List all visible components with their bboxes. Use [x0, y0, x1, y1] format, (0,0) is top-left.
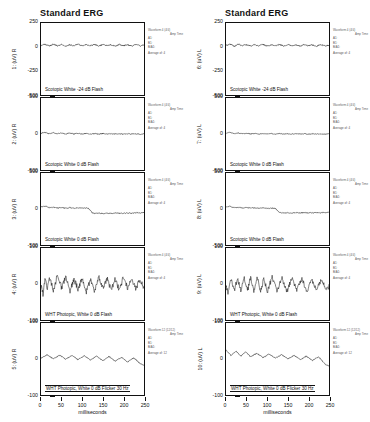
annotation-average: Average of: 4 — [333, 126, 369, 130]
x-tick-label: 50 — [58, 402, 64, 408]
y-tick-label: -100 — [213, 393, 223, 398]
y-axis-ticks: 5000-500 — [16, 97, 40, 171]
annotation-row: B/A1: — [333, 195, 369, 199]
annotation-row: B/A1: — [148, 270, 184, 274]
x-tick-mark — [61, 397, 62, 401]
y-tick-label: 0 — [35, 131, 38, 136]
condition-label: Scotopic White 0 dB Flash — [45, 237, 99, 242]
x-axis: 050100150200250milliseconds — [225, 397, 330, 419]
condition-label: Scotopic White 0 dB Flash — [45, 162, 99, 167]
plot-area: WHT Photopic, White 0 dB Flash — [225, 247, 330, 321]
annotation-row: B/A1: — [333, 270, 369, 274]
annotation-row: B/A1: — [148, 345, 184, 349]
waveform-annotation: Waveform 4 (4/4)Amp TimeA1:B1:B/A1:Avera… — [148, 28, 184, 55]
y-axis-ticks: 1000-100 — [201, 322, 225, 396]
waveform-trace — [41, 173, 144, 245]
annotation-row: B/A1: — [148, 45, 184, 49]
x-tick-label: 150 — [99, 402, 108, 408]
waveform-annotation: Waveform 12 (12/12)Amp TimeA1:B1:B/A1:Av… — [148, 328, 184, 355]
x-tick-label: 100 — [263, 402, 272, 408]
annotation-row: B/A1: — [148, 195, 184, 199]
x-tick-label: 200 — [305, 402, 314, 408]
waveform-trace — [41, 23, 144, 95]
annotation-average: Average of: 12 — [333, 351, 369, 355]
y-tick-label: 0 — [220, 356, 223, 361]
x-tick-mark — [82, 397, 83, 401]
x-axis-title: milliseconds — [78, 409, 106, 415]
waveform-trace — [41, 248, 144, 320]
y-tick-label: -100 — [28, 393, 38, 398]
waveform-annotation: Waveform 12 (12/12)Amp TimeA1:B1:B/A1:Av… — [333, 328, 369, 355]
column-title-right: Standard ERG — [40, 8, 103, 18]
plot-area: Scotopic White -24 dB Flash — [40, 22, 145, 96]
plot-area: Scotopic White 0 dB Flash — [40, 172, 145, 246]
x-tick-mark — [309, 397, 310, 401]
condition-label: WHT Photopic, White 0 dB Flash — [45, 312, 112, 317]
plot-area: WHT Photopic, White 0 dB Flicker 30 Hz — [40, 322, 145, 396]
x-tick-mark — [246, 397, 247, 401]
erg-panel-6: 6: (uV) L2500-250-500Scotopic White -24 … — [185, 22, 370, 96]
x-tick-mark — [103, 397, 104, 401]
x-tick-mark — [124, 397, 125, 401]
annotation-average: Average of: 4 — [333, 51, 369, 55]
waveform-trace — [226, 98, 329, 170]
annotation-row: B/A1: — [333, 345, 369, 349]
x-tick-mark — [145, 397, 146, 401]
waveform-trace — [226, 23, 329, 95]
waveform-trace — [41, 98, 144, 170]
waveform-annotation: Waveform 4 (4/4)Amp TimeA1:B1:B/A1:Avera… — [333, 103, 369, 130]
plot-area: Scotopic White 0 dB Flash — [225, 97, 330, 171]
erg-panel-8: 8: (uV) L5000-500Scotopic White 0 dB Fla… — [185, 172, 370, 246]
condition-label: WHT Photopic, White 0 dB Flicker 30 Hz — [45, 385, 130, 392]
x-axis: 050100150200250milliseconds — [40, 397, 145, 419]
x-tick-mark — [267, 397, 268, 401]
y-axis-ticks: 1000-100 — [201, 247, 225, 321]
waveform-trace — [226, 248, 329, 320]
y-axis-ticks: 2500-250-500 — [201, 22, 225, 96]
y-axis-ticks: 2500-250-500 — [16, 22, 40, 96]
waveform-annotation: Waveform 4 (4/4)Amp TimeA1:B1:B/A1:Avera… — [148, 103, 184, 130]
waveform-annotation: Waveform 4 (4/4)Amp TimeA1:B1:B/A1:Avera… — [148, 178, 184, 205]
annotation-row: B/A1: — [333, 45, 369, 49]
y-tick-label: 100 — [29, 319, 38, 324]
y-tick-label: 500 — [29, 169, 38, 174]
waveform-annotation: Waveform 4 (4/4)Amp TimeA1:B1:B/A1:Avera… — [333, 178, 369, 205]
annotation-average: Average of: 4 — [148, 201, 184, 205]
column-right-eye: Standard ERG 1: (uV) R2500-250-500Scotop… — [0, 0, 185, 422]
condition-label: Scotopic White -24 dB Flash — [45, 87, 103, 92]
x-tick-mark — [40, 397, 41, 401]
x-tick-label: 200 — [120, 402, 129, 408]
condition-label: WHT Photopic, White 0 dB Flash — [230, 312, 297, 317]
x-tick-label: 0 — [39, 402, 42, 408]
x-tick-label: 0 — [224, 402, 227, 408]
erg-panel-9: 9: (uV) L1000-100WHT Photopic, White 0 d… — [185, 247, 370, 321]
waveform-annotation: Waveform 4 (4/4)Amp TimeA1:B1:B/A1:Avera… — [148, 253, 184, 280]
y-tick-label: 500 — [214, 169, 223, 174]
column-left-eye: Standard ERG 6: (uV) L2500-250-500Scotop… — [185, 0, 370, 422]
condition-label: Scotopic White -24 dB Flash — [230, 87, 288, 92]
annotation-average: Average of: 4 — [333, 201, 369, 205]
x-tick-mark — [288, 397, 289, 401]
y-tick-label: 250 — [29, 19, 38, 24]
annotation-row: B/A1: — [148, 120, 184, 124]
condition-label: WHT Photopic, White 0 dB Flicker 30 Hz — [230, 385, 315, 392]
y-axis-ticks: 1000-100 — [16, 247, 40, 321]
y-tick-label: 250 — [214, 19, 223, 24]
plot-area: WHT Photopic, White 0 dB Flicker 30 Hz — [225, 322, 330, 396]
y-tick-label: 500 — [214, 94, 223, 99]
erg-report-sheet: Standard ERG 1: (uV) R2500-250-500Scotop… — [0, 0, 370, 422]
x-tick-mark — [225, 397, 226, 401]
y-tick-label: 100 — [29, 244, 38, 249]
erg-panel-2: 2: (uV) R5000-500Scotopic White 0 dB Fla… — [0, 97, 185, 171]
erg-panel-7: 7: (uV) L5000-500Scotopic White 0 dB Fla… — [185, 97, 370, 171]
erg-panel-10: 10: (uV) L1000-100WHT Photopic, White 0 … — [185, 322, 370, 396]
erg-panel-1: 1: (uV) R2500-250-500Scotopic White -24 … — [0, 22, 185, 96]
erg-panel-5: 5: (uV) R1000-100WHT Photopic, White 0 d… — [0, 322, 185, 396]
y-tick-label: 0 — [35, 44, 38, 49]
y-tick-label: 0 — [220, 206, 223, 211]
annotation-average: Average of: 4 — [333, 276, 369, 280]
x-tick-mark — [330, 397, 331, 401]
condition-label: Scotopic White 0 dB Flash — [230, 237, 284, 242]
column-title-left: Standard ERG — [225, 8, 288, 18]
x-tick-label: 250 — [326, 402, 335, 408]
